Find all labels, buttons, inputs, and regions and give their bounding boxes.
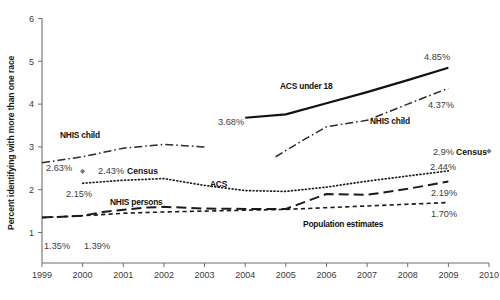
x-tick-label-2002: 2002 (154, 270, 174, 280)
series-line-nhis-child-segment-b (276, 88, 449, 156)
y-tick-label-2: 2 (29, 185, 34, 195)
y-tick-label-4: 4 (29, 99, 34, 109)
x-tick-label-2006: 2006 (316, 270, 336, 280)
y-axis-ticks: 6 5 4 3 2 1 (29, 14, 42, 238)
y-tick-label-5: 5 (29, 57, 34, 67)
x-tick-label-2009: 2009 (438, 270, 458, 280)
series-label-population-estimates: Population estimates (303, 219, 384, 229)
x-tick-label-2000: 2000 (73, 270, 93, 280)
y-axis-title: Percent identifying with more than one r… (6, 55, 16, 230)
x-tick-label-1999: 1999 (32, 270, 52, 280)
x-tick-label-2004: 2004 (235, 270, 255, 280)
value-label-2-19: 2.19% (431, 188, 457, 198)
series-label-nhis-persons: NHIS persons (110, 197, 163, 207)
series-line-nhis-persons (42, 182, 448, 218)
value-label-1-70: 1.70% (431, 209, 457, 219)
value-label-4-37: 4.37% (428, 100, 454, 110)
series-label-acs: ACS (210, 179, 228, 189)
series-line-nhis-child-segment-a (42, 144, 205, 162)
census-diamond-marker-2 (486, 149, 491, 154)
y-tick-label-3: 3 (29, 142, 34, 152)
x-tick-label-2005: 2005 (276, 270, 296, 280)
value-label-2-63: 2.63% (46, 163, 72, 173)
x-tick-label-2001: 2001 (113, 270, 133, 280)
x-tick-label-2007: 2007 (357, 270, 377, 280)
y-tick-label-1: 1 (29, 228, 34, 238)
x-axis-ticks: 1999 2000 2001 2002 2003 2004 2005 2006 … (32, 263, 499, 280)
census-left-name-label: Census (127, 166, 158, 176)
y-tick-label-6: 6 (29, 14, 34, 24)
value-label-2-44: 2.44% (430, 162, 456, 172)
value-label-1-39: 1.39% (84, 241, 110, 251)
census-diamond-marker-1 (80, 169, 85, 174)
value-label-3-68: 3.68% (218, 117, 244, 127)
value-label-2-15: 2.15% (66, 189, 92, 199)
value-label-4-85: 4.85% (424, 52, 450, 62)
value-label-1-35: 1.35% (44, 241, 70, 251)
x-tick-label-2008: 2008 (398, 270, 418, 280)
line-chart: 6 5 4 3 2 1 1999 2000 2001 2002 2003 (0, 0, 500, 300)
series-line-acs-under-18 (245, 68, 448, 118)
series-label-acs-under-18: ACS under 18 (280, 81, 333, 91)
series-line-population-estimates (42, 203, 448, 218)
census-right-name-label: Census (456, 147, 487, 157)
chart-container: 6 5 4 3 2 1 1999 2000 2001 2002 2003 (0, 0, 500, 300)
series-label-nhis-child-right: NHIS child (370, 116, 410, 126)
x-tick-label-2003: 2003 (194, 270, 214, 280)
census-left-value-label: 2.43% (98, 166, 124, 176)
x-tick-label-2010: 2010 (479, 270, 499, 280)
census-right-value-label: 2.9% (433, 147, 454, 157)
series-label-nhis-child-left: NHIS child (60, 130, 100, 140)
